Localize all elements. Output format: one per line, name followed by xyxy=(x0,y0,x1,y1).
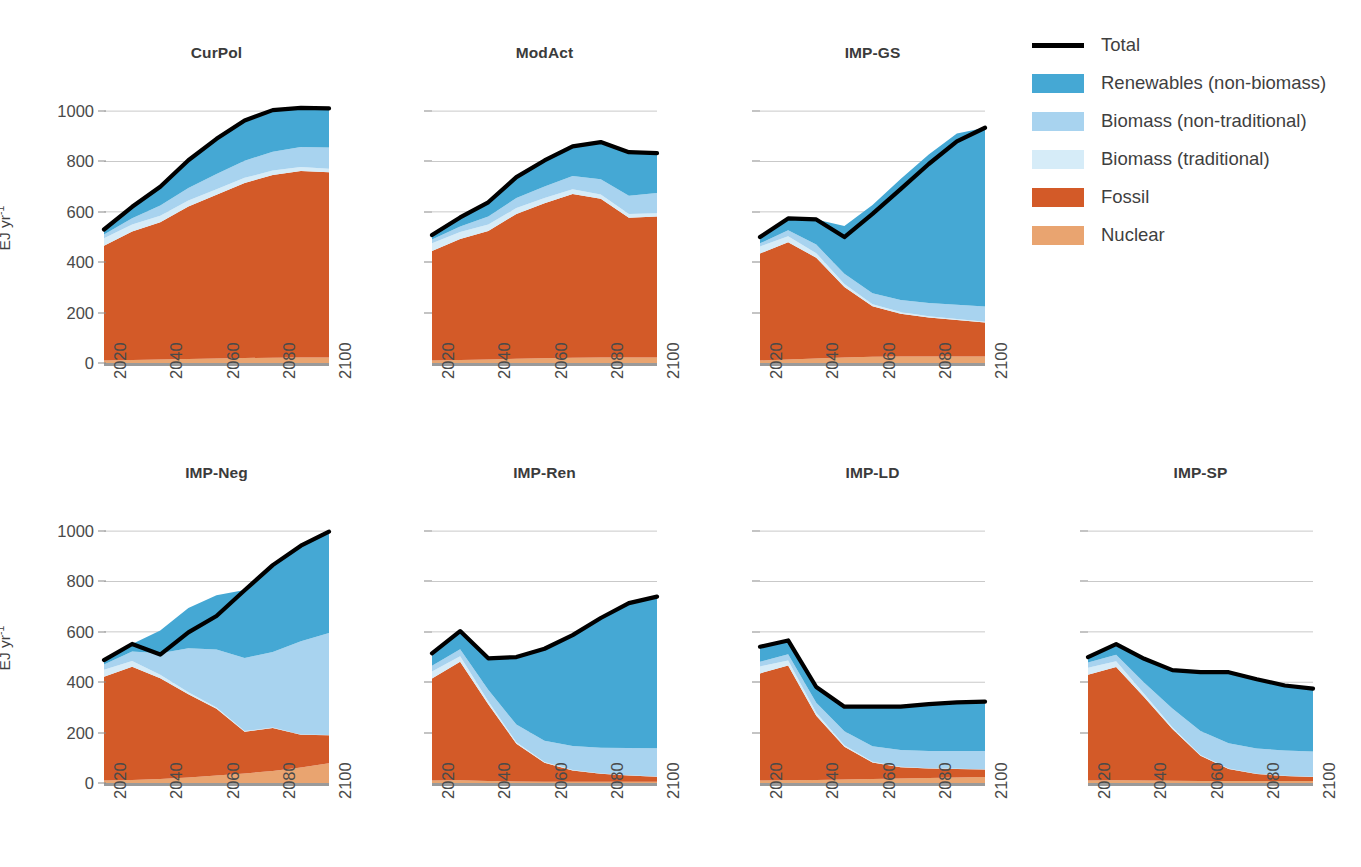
y-tick-mark xyxy=(424,211,432,212)
x-tick-label: 2100 xyxy=(1320,762,1339,799)
legend-color-swatch xyxy=(1032,112,1084,131)
y-tick-mark xyxy=(98,732,106,733)
x-tick-label: 2100 xyxy=(992,762,1011,799)
y-tick-mark xyxy=(98,111,106,112)
y-tick-label: 600 xyxy=(66,202,94,221)
y-tick-mark xyxy=(424,531,432,532)
x-tick-label: 2020 xyxy=(111,762,130,799)
x-tick-label: 2020 xyxy=(439,342,458,379)
legend-item[interactable]: Renewables (non-biomass) xyxy=(1032,64,1352,102)
y-tick-mark xyxy=(1080,631,1088,632)
x-tick-label: 2080 xyxy=(936,342,955,379)
y-tick-label: 400 xyxy=(66,673,94,692)
y-tick-mark xyxy=(752,531,760,532)
y-tick-mark xyxy=(752,211,760,212)
y-axis-title: EJ yr-1 xyxy=(0,588,14,708)
y-tick-label: 200 xyxy=(66,723,94,742)
legend-item[interactable]: Fossil xyxy=(1032,178,1352,216)
y-axis-title-text: EJ yr xyxy=(0,215,13,250)
x-tick-label: 2080 xyxy=(936,762,955,799)
plot-area xyxy=(432,516,657,789)
y-axis-title-exponent: -1 xyxy=(0,205,6,214)
x-tick-label: 2100 xyxy=(664,762,683,799)
x-tick-label: 2040 xyxy=(495,762,514,799)
panel-curpol: CurPol2020204020602080210002004006008001… xyxy=(104,96,329,363)
legend-item[interactable]: Nuclear xyxy=(1032,216,1352,254)
y-tick-label: 0 xyxy=(85,774,94,793)
x-tick-label: 2020 xyxy=(439,762,458,799)
stacked-areas xyxy=(760,128,985,363)
plot-area xyxy=(432,96,657,369)
panel-title: IMP-Neg xyxy=(104,464,329,482)
y-tick-mark xyxy=(98,531,106,532)
x-tick-label: 2020 xyxy=(111,342,130,379)
figure-root: CurPol2020204020602080210002004006008001… xyxy=(0,0,1361,867)
y-tick-mark xyxy=(1080,682,1088,683)
x-tick-label: 2040 xyxy=(823,762,842,799)
y-tick-mark xyxy=(98,363,106,364)
y-tick-mark xyxy=(98,161,106,162)
panel-imp-neg: IMP-Neg202020402060208021000200400600800… xyxy=(104,516,329,783)
y-tick-mark xyxy=(424,111,432,112)
plot-area xyxy=(760,516,985,789)
area-fossil xyxy=(104,171,329,360)
y-tick-mark xyxy=(98,211,106,212)
y-axis-title: EJ yr-1 xyxy=(0,168,14,288)
y-tick-mark xyxy=(1080,531,1088,532)
stacked-areas xyxy=(104,532,329,783)
y-tick-label: 600 xyxy=(66,622,94,641)
panel-modact: ModAct20202040206020802100 xyxy=(432,96,657,363)
legend-line-swatch xyxy=(1032,36,1084,55)
chart-legend: TotalRenewables (non-biomass)Biomass (no… xyxy=(1032,26,1352,254)
x-tick-label: 2080 xyxy=(280,342,299,379)
y-tick-mark xyxy=(1080,581,1088,582)
y-tick-label: 1000 xyxy=(57,522,94,541)
y-tick-mark xyxy=(752,111,760,112)
y-tick-mark xyxy=(752,312,760,313)
x-tick-label: 2040 xyxy=(167,762,186,799)
x-tick-label: 2060 xyxy=(224,762,243,799)
legend-item-label: Fossil xyxy=(1101,186,1149,208)
y-tick-label: 800 xyxy=(66,152,94,171)
y-tick-label: 800 xyxy=(66,572,94,591)
x-tick-label: 2040 xyxy=(167,342,186,379)
stacked-areas xyxy=(104,108,329,363)
y-tick-mark xyxy=(98,262,106,263)
y-tick-label: 1000 xyxy=(57,102,94,121)
x-tick-label: 2040 xyxy=(1151,762,1170,799)
panel-title: CurPol xyxy=(104,44,329,62)
y-tick-mark xyxy=(752,262,760,263)
legend-color-swatch xyxy=(1032,188,1084,207)
stacked-areas xyxy=(432,142,657,363)
x-tick-label: 2100 xyxy=(336,762,355,799)
x-tick-label: 2020 xyxy=(767,762,786,799)
y-axis-title-exponent: -1 xyxy=(0,625,6,634)
x-tick-label: 2100 xyxy=(992,342,1011,379)
legend-item-label: Biomass (traditional) xyxy=(1101,148,1270,170)
y-tick-mark xyxy=(424,312,432,313)
y-tick-mark xyxy=(1080,732,1088,733)
y-tick-label: 0 xyxy=(85,354,94,373)
panel-title: IMP-Ren xyxy=(432,464,657,482)
x-tick-label: 2040 xyxy=(823,342,842,379)
y-tick-mark xyxy=(98,783,106,784)
legend-item[interactable]: Biomass (non-traditional) xyxy=(1032,102,1352,140)
panel-imp-ld: IMP-LD20202040206020802100 xyxy=(760,516,985,783)
x-tick-label: 2080 xyxy=(280,762,299,799)
x-tick-label: 2100 xyxy=(336,342,355,379)
y-tick-mark xyxy=(424,262,432,263)
y-tick-label: 400 xyxy=(66,253,94,272)
x-tick-label: 2080 xyxy=(608,762,627,799)
x-tick-label: 2080 xyxy=(608,342,627,379)
legend-item-label: Nuclear xyxy=(1101,224,1165,246)
plot-area xyxy=(104,516,329,789)
y-tick-mark xyxy=(752,161,760,162)
legend-item[interactable]: Biomass (traditional) xyxy=(1032,140,1352,178)
y-axis-title-text: EJ yr xyxy=(0,635,13,670)
y-tick-mark xyxy=(752,581,760,582)
legend-item-label: Biomass (non-traditional) xyxy=(1101,110,1307,132)
panel-title: IMP-SP xyxy=(1088,464,1313,482)
y-tick-mark xyxy=(424,682,432,683)
legend-item[interactable]: Total xyxy=(1032,26,1352,64)
x-tick-label: 2020 xyxy=(1095,762,1114,799)
